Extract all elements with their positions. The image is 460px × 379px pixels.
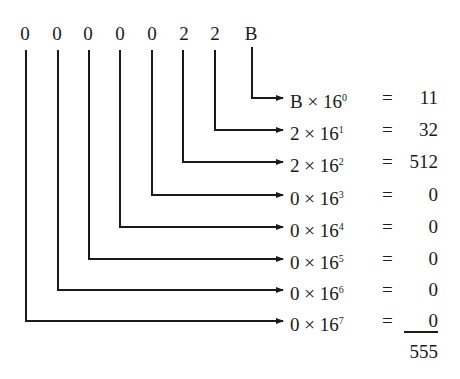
hex-digit-1: 2 (210, 24, 220, 44)
hex-digit-4: 0 (115, 24, 125, 44)
term-expression: 2 × 161 (290, 120, 344, 144)
term-value: 0 (378, 249, 438, 269)
term-value: 0 (378, 280, 438, 300)
hex-digit-2: 2 (179, 24, 189, 44)
hex-digit-3: 0 (147, 24, 157, 44)
arrow-connector-0-e (26, 50, 283, 321)
arrow-connector-0-b (120, 50, 283, 227)
hex-digit-0: B (245, 24, 258, 44)
term-expression: 0 × 164 (290, 217, 344, 241)
term-value: 0 (378, 217, 438, 237)
hex-conversion-diagram: 0 0 0 0 0 2 2 B B × 160 = 11 2 × 161 = 3… (0, 0, 460, 379)
term-expression: 0 × 166 (290, 280, 344, 304)
term-value: 512 (378, 152, 438, 172)
sum-underline (404, 331, 438, 333)
term-expression: 2 × 162 (290, 152, 344, 176)
arrow-connector-0-d (58, 50, 283, 290)
term-value: 0 (378, 185, 438, 205)
term-value: 11 (378, 88, 438, 108)
arrow-connector-0-a (152, 50, 283, 195)
term-value: 32 (378, 120, 438, 140)
term-expression: 0 × 167 (290, 311, 344, 335)
hex-digit-5: 0 (83, 24, 93, 44)
sum-total: 555 (378, 342, 438, 362)
term-expression: B × 160 (290, 88, 347, 112)
hex-digit-6: 0 (52, 24, 62, 44)
arrow-connector-2-a (215, 50, 283, 130)
term-expression: 0 × 165 (290, 249, 344, 273)
term-value: 0 (378, 311, 438, 331)
arrow-connector-2-b (183, 50, 283, 162)
term-expression: 0 × 163 (290, 185, 344, 209)
arrow-connector-b (252, 47, 283, 98)
hex-digit-7: 0 (20, 24, 30, 44)
